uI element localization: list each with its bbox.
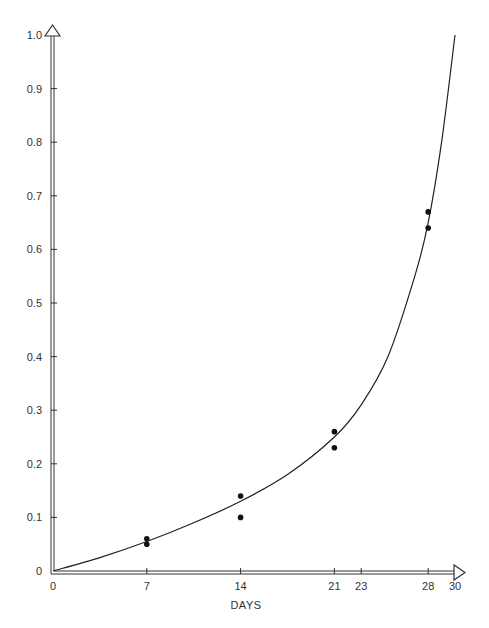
y-tick-label: 1.0 [27, 29, 42, 41]
x-tick-label: 28 [422, 580, 434, 592]
x-tick-label: 0 [50, 580, 56, 592]
data-point [425, 225, 431, 231]
data-points [144, 209, 431, 547]
y-tick-label: 0.5 [27, 297, 42, 309]
y-tick-label: 0.2 [27, 458, 42, 470]
y-tick-label: 0.4 [27, 351, 42, 363]
x-tick-label: 30 [449, 580, 461, 592]
data-point [425, 209, 431, 215]
x-axis-arrow-icon [454, 565, 465, 580]
x-tick-label: 14 [234, 580, 246, 592]
fitted-curve [53, 35, 455, 571]
y-axis-arrow-icon [45, 25, 60, 36]
x-ticks: 071421232830 [50, 568, 461, 592]
data-point [144, 536, 150, 542]
y-tick-label: 0.9 [27, 83, 42, 95]
data-point [332, 445, 338, 451]
data-point [238, 493, 244, 499]
y-tick-label: 0.1 [27, 511, 42, 523]
x-axis-title: DAYS [230, 599, 261, 611]
x-tick-label: 7 [144, 580, 150, 592]
y-tick-label: 0.7 [27, 190, 42, 202]
y-ticks: 00.10.20.30.40.50.60.70.80.91.0 [27, 29, 57, 577]
y-tick-label: 0.3 [27, 404, 42, 416]
y-tick-label: 0 [36, 565, 42, 577]
data-point [144, 541, 150, 547]
chart-canvas: 00.10.20.30.40.50.60.70.80.91.0 07142123… [0, 0, 489, 628]
data-point [332, 429, 338, 435]
x-tick-label: 23 [355, 580, 367, 592]
data-point [238, 515, 244, 521]
x-axis [51, 565, 465, 580]
x-tick-label: 21 [328, 580, 340, 592]
y-tick-label: 0.8 [27, 136, 42, 148]
y-axis [45, 25, 60, 574]
y-tick-label: 0.6 [27, 243, 42, 255]
